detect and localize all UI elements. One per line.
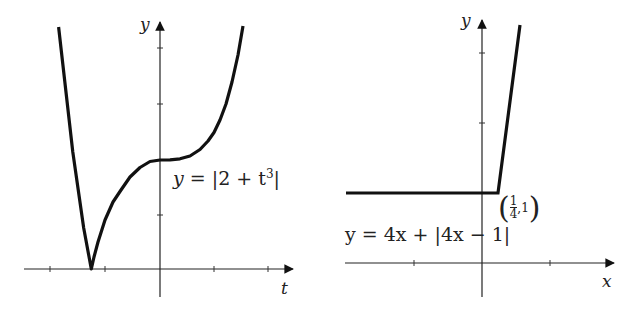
corner-point-label: (14,1) <box>498 190 541 225</box>
left-plot <box>24 22 293 297</box>
right-y-axis-label: y <box>461 10 471 30</box>
eq-close: | <box>274 167 280 189</box>
eq-lhs: y <box>173 167 184 189</box>
paren-close: ) <box>529 190 541 225</box>
right-plot <box>345 20 614 297</box>
left-equation-label: y = |2 + t3| <box>173 167 280 189</box>
paren-open: ( <box>498 190 510 225</box>
eq-rhs: |2 + t <box>212 167 266 189</box>
figure-canvas <box>0 0 617 314</box>
eq-equals: = <box>190 167 206 189</box>
point-y-value: 1 <box>521 201 529 215</box>
left-curve <box>59 26 243 269</box>
right-equation-label: y = 4x + |4x − 1| <box>345 223 510 245</box>
right-x-axis-label: x <box>602 271 612 291</box>
left-y-axis-label: y <box>140 14 150 34</box>
left-t-axis-label: t <box>281 278 288 298</box>
right-curve <box>346 25 520 193</box>
eq-exponent: 3 <box>266 167 274 181</box>
